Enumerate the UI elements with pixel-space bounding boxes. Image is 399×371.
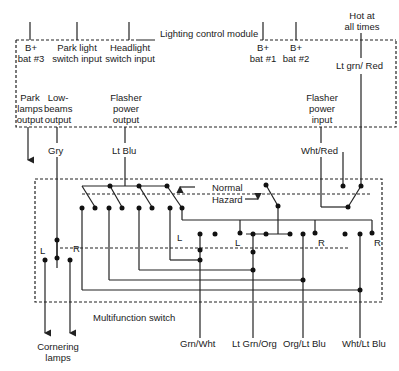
normal-label: Normal — [212, 182, 243, 193]
contact-label-r: R — [73, 243, 80, 254]
wire-wht-lt-blu: Wht/Lt Blu — [342, 338, 386, 349]
input-park-light: Park lightswitch input — [52, 42, 102, 64]
output-park-lamps: Parklampsoutput — [16, 92, 44, 125]
wire-grn-wht: Grn/Wht — [180, 338, 215, 349]
input-headlight: Headlightswitch input — [104, 42, 156, 64]
hot-at-all-times-label: Hot atall times — [340, 10, 384, 32]
wire-lt-grn-red: Lt grn/ Red — [336, 60, 383, 71]
contact-label-l: L — [177, 232, 182, 243]
input-b-bat2: B+bat #2 — [281, 42, 311, 64]
output-low-beams: Low-beamsoutput — [44, 92, 72, 125]
wire-gry: Gry — [48, 145, 63, 156]
output-flasher-power: Flasherpoweroutput — [108, 92, 144, 125]
wire-lt-grn-org: Lt Grn/Org — [232, 338, 277, 349]
contact-label-r: R — [318, 237, 325, 248]
input-flasher-power: Flasherpowerinput — [304, 92, 340, 125]
multifunction-switch-box — [35, 179, 382, 302]
wire-wht-red: Wht/Red — [301, 145, 338, 156]
contact-label-l: L — [235, 237, 240, 248]
contact-label-r: R — [374, 237, 381, 248]
multifunction-switch-title: Multifunction switch — [93, 312, 175, 323]
wire-lt-blu: Lt Blu — [112, 145, 136, 156]
contact-label-l: L — [40, 245, 45, 256]
hazard-label: Hazard — [212, 194, 243, 205]
cornering-lamps-label: Corneringlamps — [36, 341, 80, 363]
module-title: Lighting control module — [160, 28, 258, 39]
wire-org-lt-blu: Org/Lt Blu — [283, 338, 326, 349]
input-b-bat1: B+bat #1 — [248, 42, 278, 64]
input-b-bat3: B+bat #3 — [16, 42, 46, 64]
